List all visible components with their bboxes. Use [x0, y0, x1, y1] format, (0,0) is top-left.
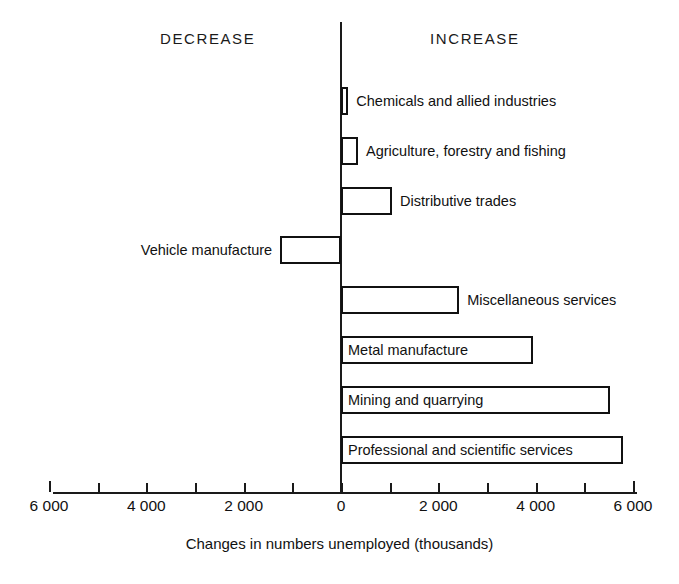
axis-tick — [98, 483, 100, 492]
axis-tick — [292, 483, 294, 492]
axis-tick — [341, 483, 343, 492]
bar — [280, 236, 341, 264]
decrease-header: DECREASE — [160, 30, 255, 47]
tick-label: 6 000 — [30, 497, 69, 515]
bar — [341, 137, 358, 165]
axis-tick — [584, 483, 586, 492]
bar — [341, 286, 459, 314]
increase-header: INCREASE — [430, 30, 520, 47]
x-axis-line — [53, 492, 637, 494]
bar-row: Miscellaneous services — [0, 286, 679, 314]
tick-label: 4 000 — [127, 497, 166, 515]
bar-label: Mining and quarrying — [348, 386, 483, 414]
axis-tick — [195, 483, 197, 492]
axis-endcap — [49, 481, 51, 492]
bar-label: Professional and scientific services — [348, 436, 573, 464]
bar — [341, 87, 348, 115]
bar-row: Metal manufacture — [0, 336, 679, 364]
axis-tick — [244, 483, 246, 492]
tick-label: 4 000 — [516, 497, 555, 515]
axis-endcap — [633, 481, 635, 492]
bar-row: Mining and quarrying — [0, 386, 679, 414]
bar-row: Vehicle manufacture — [0, 236, 679, 264]
axis-tick — [536, 483, 538, 492]
bar-row: Agriculture, forestry and fishing — [0, 137, 679, 165]
bar-label: Distributive trades — [400, 187, 516, 215]
x-axis-title: Changes in numbers unemployed (thousands… — [0, 535, 679, 552]
bar — [341, 187, 392, 215]
bar-label: Metal manufacture — [348, 336, 468, 364]
bar-row: Distributive trades — [0, 187, 679, 215]
bar-row: Chemicals and allied industries — [0, 87, 679, 115]
bar-row: Professional and scientific services — [0, 436, 679, 464]
axis-tick — [487, 483, 489, 492]
tick-label: 6 000 — [614, 497, 653, 515]
bar-label: Vehicle manufacture — [141, 236, 272, 264]
bar-label: Chemicals and allied industries — [356, 87, 556, 115]
bar-chart: DECREASE INCREASE Chemicals and allied i… — [0, 0, 679, 584]
axis-tick — [146, 483, 148, 492]
bar-label: Agriculture, forestry and fishing — [366, 137, 566, 165]
tick-label: 2 000 — [224, 497, 263, 515]
tick-label: 2 000 — [419, 497, 458, 515]
axis-tick — [438, 483, 440, 492]
bar-label: Miscellaneous services — [467, 286, 616, 314]
axis-tick — [390, 483, 392, 492]
tick-label: 0 — [337, 497, 346, 515]
